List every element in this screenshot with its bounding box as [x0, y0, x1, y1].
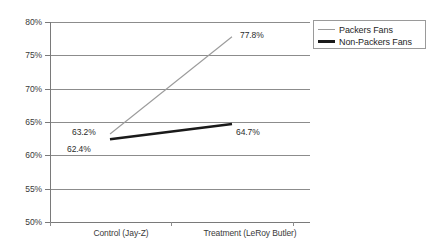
legend-label-packers-fans: Packers Fans: [339, 25, 393, 35]
legend-item-non-packers-fans[interactable]: Non-Packers Fans: [318, 36, 421, 47]
series-line-packers-fans: [110, 37, 232, 134]
legend-swatch-line-icon: [318, 37, 335, 47]
legend-label-non-packers-fans: Non-Packers Fans: [339, 37, 412, 47]
data-label-packers-treatment: 77.8%: [240, 31, 264, 40]
legend-item-packers-fans[interactable]: Packers Fans: [318, 24, 421, 35]
data-label-packers-control: 63.2%: [72, 128, 96, 137]
data-label-nonpackers-control: 62.4%: [67, 145, 91, 154]
data-label-nonpackers-treatment: 64.7%: [236, 128, 260, 137]
legend-swatch-line-icon: [318, 25, 335, 35]
legend: Packers Fans Non-Packers Fans: [313, 20, 426, 49]
line-chart: 80% 75% 70% 65% 60% 55% 50% Control (Jay…: [0, 0, 434, 252]
series-line-non-packers-fans: [110, 124, 232, 139]
